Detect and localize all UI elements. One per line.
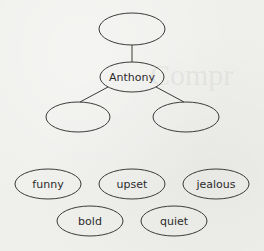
word-bank-upset[interactable]: upset	[99, 169, 165, 199]
blank-node-top[interactable]	[99, 13, 165, 45]
oval-label: bold	[78, 215, 102, 228]
word-bank-jealous[interactable]: jealous	[183, 169, 249, 199]
oval-label: funny	[32, 178, 64, 191]
oval-label: jealous	[195, 178, 235, 191]
word-bank-bold[interactable]: bold	[57, 206, 123, 236]
oval-shape	[46, 102, 110, 132]
word-bank-funny[interactable]: funny	[15, 169, 81, 199]
trait-web-diagram: Anthony funnyupsetjealousboldquiet	[0, 0, 264, 251]
oval-label: upset	[117, 178, 148, 191]
blank-node-right[interactable]	[153, 102, 219, 132]
oval-shape	[99, 13, 165, 45]
connector-line	[156, 87, 184, 102]
oval-shape	[153, 102, 219, 132]
web-nodes: Anthony	[46, 13, 219, 132]
word-bank-quiet[interactable]: quiet	[141, 206, 207, 236]
connector-line	[80, 87, 108, 102]
blank-node-left[interactable]	[46, 102, 110, 132]
oval-label: quiet	[160, 215, 189, 228]
center-node-anthony: Anthony	[100, 62, 164, 92]
word-bank: funnyupsetjealousboldquiet	[15, 169, 249, 236]
oval-label: Anthony	[109, 71, 155, 84]
